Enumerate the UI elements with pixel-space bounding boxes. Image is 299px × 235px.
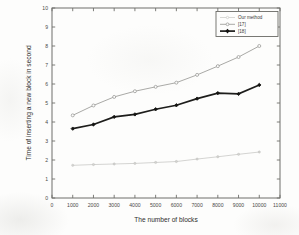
x-tick-label: 6000 xyxy=(171,202,182,208)
data-point xyxy=(237,56,240,59)
series-18 xyxy=(71,83,261,130)
legend-label-18: [18] xyxy=(238,29,246,34)
y-axis-title: Time of inserting a new block in second xyxy=(25,45,33,161)
data-point xyxy=(113,163,115,165)
data-point xyxy=(154,85,157,88)
data-point xyxy=(217,156,219,158)
x-tick-label: 9000 xyxy=(233,202,244,208)
series-our-method xyxy=(72,151,261,167)
x-tick-label: 7000 xyxy=(191,202,202,208)
x-axis-tick-labels: 0100020003000400050006000700080009000100… xyxy=(51,202,287,208)
data-point xyxy=(133,90,136,93)
y-tick-label: 7 xyxy=(45,62,48,68)
y-tick-label: 2 xyxy=(45,157,48,163)
y-axis-tick-labels: 012345678910 xyxy=(42,5,48,201)
legend-label-17: [17] xyxy=(238,22,246,27)
legend-label-our-method: Our method xyxy=(238,15,263,20)
y-tick-label: 3 xyxy=(45,138,48,144)
data-point xyxy=(154,108,157,111)
x-tick-label: 0 xyxy=(51,202,54,208)
x-tick-label: 2000 xyxy=(88,202,99,208)
x-axis-title: The number of blocks xyxy=(134,216,198,223)
line-chart: 012345678910 010002000300040005000600070… xyxy=(0,0,299,235)
data-point xyxy=(133,113,136,116)
y-tick-label: 6 xyxy=(45,81,48,87)
y-tick-label: 9 xyxy=(45,24,48,30)
data-point xyxy=(134,162,136,164)
y-tick-label: 1 xyxy=(45,176,48,182)
series-17 xyxy=(71,45,261,117)
chart-legend: Our method [17] [18] xyxy=(216,12,278,37)
data-point xyxy=(196,158,198,160)
data-point xyxy=(71,127,74,130)
data-point xyxy=(113,95,116,98)
figure-canvas: 012345678910 010002000300040005000600070… xyxy=(0,0,299,235)
legend-marker-our-method xyxy=(226,16,228,18)
x-tick-label: 10000 xyxy=(252,202,266,208)
y-tick-label: 8 xyxy=(45,43,48,49)
data-point xyxy=(154,161,156,163)
data-point xyxy=(196,73,199,76)
data-point xyxy=(92,104,95,107)
data-point xyxy=(237,153,239,155)
data-point xyxy=(258,45,261,48)
x-tick-label: 11000 xyxy=(273,202,287,208)
y-tick-label: 10 xyxy=(42,5,48,11)
series-layer xyxy=(71,45,261,167)
data-point xyxy=(258,151,260,153)
x-tick-label: 3000 xyxy=(109,202,120,208)
y-tick-label: 5 xyxy=(45,100,48,106)
x-tick-label: 8000 xyxy=(212,202,223,208)
y-tick-label: 4 xyxy=(45,119,48,125)
y-tick-label: 0 xyxy=(45,195,48,201)
x-tick-label: 4000 xyxy=(129,202,140,208)
legend-marker-17 xyxy=(226,23,229,26)
x-tick-label: 5000 xyxy=(150,202,161,208)
x-tick-label: 1000 xyxy=(67,202,78,208)
data-point xyxy=(175,160,177,162)
data-point xyxy=(72,164,74,166)
data-point xyxy=(175,81,178,84)
data-point xyxy=(216,65,219,68)
data-point xyxy=(71,114,74,117)
data-point xyxy=(92,163,94,165)
